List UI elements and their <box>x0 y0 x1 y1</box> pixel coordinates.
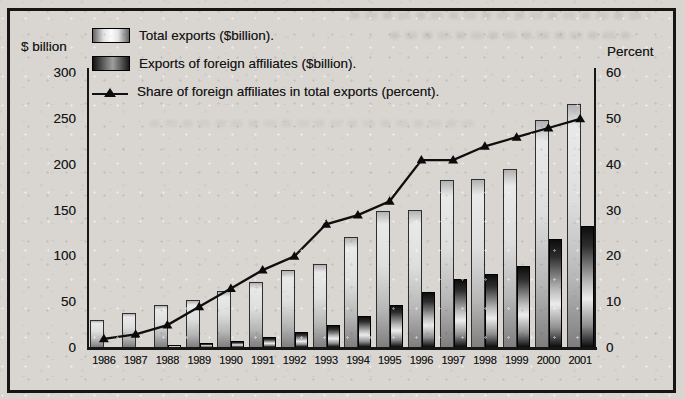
year-label: 1999 <box>500 354 534 366</box>
print-bleed-smudge <box>350 12 650 19</box>
year-label: 1995 <box>373 354 407 366</box>
legend-item-total-exports: Total exports ($billion). <box>92 21 439 49</box>
bar-foreign-affiliate-exports-2000 <box>549 239 562 348</box>
bar-total-exports-1990 <box>217 291 231 348</box>
right-tick-label: 50 <box>606 111 646 127</box>
legend-label: Total exports ($billion). <box>139 28 274 43</box>
year-label: 1991 <box>246 354 280 366</box>
bar-total-exports-1996 <box>408 210 422 348</box>
bar-total-exports-1987 <box>122 313 136 348</box>
legend-item-share-line: Share of foreign affiliates in total exp… <box>92 77 439 105</box>
year-label: 1987 <box>119 354 153 366</box>
bar-foreign-affiliate-exports-1993 <box>327 325 340 348</box>
bar-total-exports-1986 <box>90 320 104 348</box>
bar-total-exports-1989 <box>186 300 200 348</box>
right-tick-label: 10 <box>606 294 646 310</box>
year-label: 1994 <box>341 354 375 366</box>
left-tick-label: 300 <box>28 65 76 81</box>
triangle-line-marker-icon <box>92 85 128 97</box>
right-tick-label: 0 <box>606 340 646 356</box>
bar-total-exports-1992 <box>281 270 295 348</box>
year-label: 1998 <box>468 354 502 366</box>
right-tick-label: 20 <box>606 248 646 264</box>
year-label: 1989 <box>182 354 216 366</box>
bar-total-exports-2001 <box>567 104 581 348</box>
right-tick-label: 30 <box>606 203 646 219</box>
year-label: 1986 <box>87 354 121 366</box>
left-axis-line <box>87 68 89 350</box>
scanned-chart-figure: $ billion Percent Total exports ($billio… <box>0 0 685 399</box>
light-bar-swatch-icon <box>92 28 130 43</box>
bar-foreign-affiliate-exports-2001 <box>581 226 594 348</box>
right-axis-line <box>594 68 596 350</box>
year-label: 1993 <box>309 354 343 366</box>
bar-total-exports-1999 <box>503 169 517 348</box>
bar-foreign-affiliate-exports-1992 <box>295 332 308 348</box>
legend: Total exports ($billion). Exports of for… <box>92 21 439 105</box>
bar-foreign-affiliate-exports-1999 <box>517 266 530 348</box>
year-label: 1992 <box>277 354 311 366</box>
bar-total-exports-1988 <box>154 305 168 348</box>
bar-total-exports-1995 <box>376 211 390 348</box>
right-tick-label: 40 <box>606 157 646 173</box>
bar-foreign-affiliate-exports-1998 <box>485 274 498 348</box>
bar-total-exports-1994 <box>344 237 358 348</box>
x-axis-line <box>87 347 597 350</box>
left-axis-title: $ billion <box>21 39 67 54</box>
left-tick-label: 150 <box>28 203 76 219</box>
left-tick-label: 200 <box>28 157 76 173</box>
legend-label: Exports of foreign affiliates ($billion)… <box>139 56 356 71</box>
bar-total-exports-1998 <box>471 179 485 348</box>
left-tick-label: 50 <box>28 294 76 310</box>
year-label: 2001 <box>563 354 597 366</box>
left-tick-label: 250 <box>28 111 76 127</box>
year-label: 1988 <box>150 354 184 366</box>
bar-foreign-affiliate-exports-1997 <box>454 279 467 348</box>
dark-bar-swatch-icon <box>92 56 130 71</box>
right-axis-title: Percent <box>607 44 654 59</box>
left-tick-label: 100 <box>28 248 76 264</box>
bar-total-exports-1993 <box>313 264 327 348</box>
year-label: 2000 <box>531 354 565 366</box>
year-label: 1996 <box>404 354 438 366</box>
legend-label: Share of foreign affiliates in total exp… <box>137 84 439 99</box>
legend-item-foreign-affiliate-exports: Exports of foreign affiliates ($billion)… <box>92 49 439 77</box>
bar-total-exports-1997 <box>440 180 454 348</box>
year-label: 1990 <box>214 354 248 366</box>
left-tick-label: 0 <box>28 340 76 356</box>
bar-foreign-affiliate-exports-1994 <box>358 316 371 348</box>
right-tick-label: 60 <box>606 65 646 81</box>
bar-foreign-affiliate-exports-1996 <box>422 292 435 348</box>
year-label: 1997 <box>436 354 470 366</box>
bar-total-exports-2000 <box>535 120 549 348</box>
bar-total-exports-1991 <box>249 282 263 348</box>
bar-foreign-affiliate-exports-1995 <box>390 305 403 348</box>
print-bleed-smudge <box>150 120 480 127</box>
